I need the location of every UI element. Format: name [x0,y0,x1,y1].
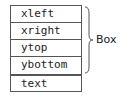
field-ytop: ytop [11,40,81,57]
box-fields-stack: xleft xright ytop ybottom [10,5,82,75]
field-text: text [10,75,82,92]
field-xleft: xleft [11,6,81,23]
field-xright: xright [11,23,81,40]
brace-label: Box [96,33,116,46]
field-ybottom: ybottom [11,57,81,74]
curly-brace-icon [84,5,96,75]
